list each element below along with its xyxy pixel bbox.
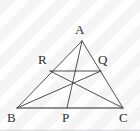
segment-layer [17, 41, 123, 108]
geometry-figure: A R Q B P C [0, 0, 140, 131]
vertex-label-B: B [7, 111, 16, 124]
vertex-label-A: A [75, 23, 84, 36]
vertex-label-P: P [62, 111, 69, 124]
cevian-AP [67, 41, 82, 108]
vertex-label-Q: Q [98, 53, 107, 66]
side-AB [17, 41, 82, 108]
vertex-label-R: R [38, 53, 47, 66]
cevian-BQ [17, 71, 101, 108]
vertex-label-C: C [119, 111, 128, 124]
